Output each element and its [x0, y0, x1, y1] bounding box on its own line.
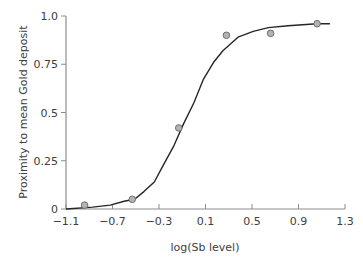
y-tick-label: 0.75: [34, 58, 59, 71]
data-point-marker: [223, 32, 230, 39]
x-axis-title: log(Sb level): [171, 241, 240, 254]
y-tick-label: 0.5: [41, 107, 59, 120]
x-tick-label: 1.3: [336, 215, 354, 228]
chart: −1.1−0.7−0.30.10.50.91.300.250.50.751.0 …: [0, 0, 363, 262]
y-tick-label: 0.25: [34, 155, 59, 168]
data-point-marker: [267, 30, 274, 37]
x-tick-label: 0.1: [197, 215, 215, 228]
data-point-marker: [81, 202, 88, 209]
data-point-marker: [175, 125, 182, 132]
x-tick-label: −0.3: [146, 215, 173, 228]
chart-svg: −1.1−0.7−0.30.10.50.91.300.250.50.751.0 …: [0, 0, 363, 262]
fitted-curve: [66, 24, 330, 209]
y-tick-label: 1.0: [41, 10, 59, 23]
y-tick-label: 0: [51, 203, 58, 216]
curve-path: [66, 24, 330, 209]
x-tick-label: 0.5: [243, 215, 261, 228]
x-tick-label: 0.9: [290, 215, 308, 228]
data-point-marker: [314, 20, 321, 27]
x-tick-label: −1.1: [53, 215, 80, 228]
x-tick-label: −0.7: [99, 215, 126, 228]
data-points: [81, 20, 320, 208]
axes: −1.1−0.7−0.30.10.50.91.300.250.50.751.0: [34, 10, 354, 228]
data-point-marker: [129, 196, 136, 203]
y-axis-title: Proximity to mean Gold deposit: [17, 25, 30, 199]
